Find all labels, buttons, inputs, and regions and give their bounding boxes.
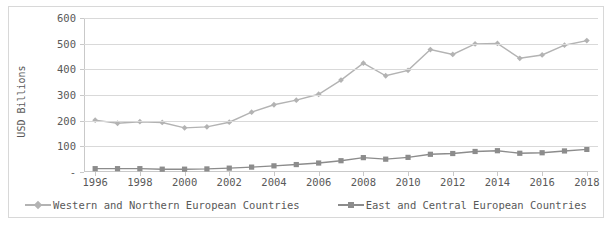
diamond-marker	[137, 119, 143, 125]
diamond-marker	[249, 109, 255, 115]
square-marker	[405, 155, 410, 160]
square-marker	[93, 166, 98, 171]
square-marker	[428, 152, 433, 157]
square-marker	[540, 150, 545, 155]
y-tick-label: 100	[57, 140, 76, 152]
series-1	[92, 38, 589, 131]
gridline-y	[84, 69, 598, 70]
x-tick-label: 2018	[574, 176, 599, 188]
square-marker	[495, 148, 500, 153]
diamond-marker	[293, 97, 299, 103]
square-marker	[182, 167, 187, 172]
x-tick-label: 1996	[83, 176, 108, 188]
square-marker	[361, 155, 366, 160]
legend-swatch	[25, 199, 51, 211]
gridline-y	[84, 146, 598, 147]
square-marker	[249, 165, 254, 170]
y-tick-mark	[80, 95, 84, 96]
x-tick-label: 2008	[351, 176, 376, 188]
gridline-y	[84, 18, 598, 19]
y-tick-label: 600	[57, 12, 76, 24]
x-tick-label: 2002	[217, 176, 242, 188]
square-marker	[338, 158, 343, 163]
y-tick-mark	[80, 121, 84, 122]
y-axis-tick-labels: -100200300400500600	[36, 12, 80, 178]
series-2	[93, 147, 590, 172]
diamond-marker	[383, 73, 389, 79]
gridline-y	[84, 44, 598, 45]
square-marker	[137, 166, 142, 171]
square-marker	[348, 202, 354, 208]
square-marker	[517, 151, 522, 156]
y-tick-mark	[80, 44, 84, 45]
square-marker	[562, 148, 567, 153]
square-marker	[450, 151, 455, 156]
legend-entry-2[interactable]: East and Central European Countries	[338, 199, 587, 211]
y-axis-title: USD Billions	[12, 36, 30, 166]
x-tick-label: 2004	[261, 176, 286, 188]
diamond-marker	[271, 102, 277, 108]
diamond-marker	[450, 52, 456, 58]
square-marker	[227, 166, 232, 171]
square-marker	[472, 149, 477, 154]
y-tick-label: 300	[57, 89, 76, 101]
y-tick-mark	[80, 146, 84, 147]
x-tick-label: 2010	[395, 176, 420, 188]
x-tick-label: 2012	[440, 176, 465, 188]
square-marker	[584, 147, 589, 152]
square-marker	[115, 166, 120, 171]
y-axis-title-label: USD Billions	[16, 65, 27, 137]
square-marker	[160, 167, 165, 172]
x-tick-label: 1998	[127, 176, 152, 188]
y-tick-label: 500	[57, 38, 76, 50]
legend-label: East and Central European Countries	[366, 199, 587, 211]
y-tick-label: -	[70, 166, 76, 178]
square-marker	[271, 163, 276, 168]
square-marker	[294, 162, 299, 167]
diamond-marker	[584, 38, 590, 44]
square-marker	[316, 160, 321, 165]
y-tick-label: 200	[57, 115, 76, 127]
y-tick-mark	[80, 69, 84, 70]
chart-legend: Western and Northern European CountriesE…	[8, 196, 604, 214]
x-tick-label: 2014	[485, 176, 510, 188]
x-tick-label: 2016	[529, 176, 554, 188]
legend-label: Western and Northern European Countries	[53, 199, 300, 211]
series-line	[95, 41, 587, 128]
y-tick-label: 400	[57, 63, 76, 75]
square-marker	[204, 166, 209, 171]
diamond-marker	[34, 201, 42, 209]
x-tick-label: 2006	[306, 176, 331, 188]
diamond-marker	[539, 52, 545, 58]
gridline-y	[84, 95, 598, 96]
plot-area	[84, 18, 598, 172]
legend-entry-1[interactable]: Western and Northern European Countries	[25, 199, 300, 211]
gridline-y	[84, 121, 598, 122]
y-tick-mark	[80, 172, 84, 173]
line-chart-figure: USD Billions -100200300400500600 1996199…	[0, 0, 613, 236]
legend-swatch	[338, 199, 364, 211]
diamond-marker	[182, 125, 188, 131]
y-tick-mark	[80, 18, 84, 19]
x-tick-label: 2000	[172, 176, 197, 188]
diamond-marker	[204, 124, 210, 130]
square-marker	[383, 157, 388, 162]
x-axis-tick-labels: 1996199820002002200420062008201020122014…	[84, 176, 598, 192]
